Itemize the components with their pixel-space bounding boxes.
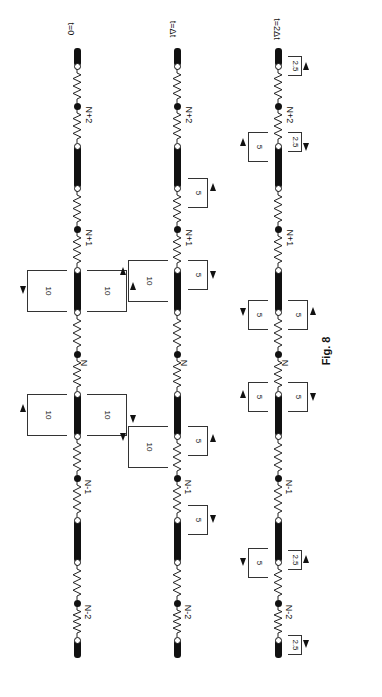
pulse-box: 5 [248, 132, 268, 162]
spring-icon [72, 315, 82, 351]
arrow-down-icon [210, 271, 216, 279]
spring-icon [172, 481, 182, 517]
pulse-value: 10 [43, 287, 52, 296]
node-mass [74, 600, 81, 607]
rod-end-terminal [74, 637, 81, 644]
arrow-up-icon [20, 404, 26, 412]
spring-icon [72, 565, 82, 600]
node-label: N+1 [184, 230, 194, 247]
rod-segment [275, 394, 282, 436]
node-label: N-1 [83, 480, 93, 495]
rod-segment [174, 394, 181, 436]
rod-end-terminal [275, 143, 282, 150]
rod-segment [74, 394, 81, 436]
pulse-value: 10 [144, 443, 153, 452]
node-mass [275, 103, 282, 110]
pulse-value: 10 [102, 287, 111, 296]
node-mass [275, 600, 282, 607]
spring-icon [172, 565, 182, 600]
spring-icon [273, 109, 283, 143]
pulse-value: 10 [43, 411, 52, 420]
pulse-box: 2.5 [288, 56, 302, 76]
spring-icon [172, 191, 182, 226]
spring-icon [273, 439, 283, 475]
node-label: N [79, 360, 89, 367]
pulse-box: 2.5 [288, 132, 302, 152]
spring-icon [273, 315, 283, 351]
pulse-value: 5 [254, 561, 263, 565]
rod-end-terminal [275, 637, 282, 644]
pulse-box: 10 [128, 260, 168, 302]
spring-icon [172, 232, 182, 267]
spring-icon [172, 315, 182, 351]
pulse-box: 5 [248, 300, 268, 330]
node-label: N+2 [184, 107, 194, 124]
spring-icon [72, 232, 82, 267]
pulse-value: 5 [193, 439, 202, 443]
pulse-value: 5 [254, 395, 263, 399]
arrow-down-icon [303, 640, 309, 648]
arrow-down-icon [120, 433, 126, 441]
node-mass [174, 351, 181, 358]
spring-icon [72, 481, 82, 517]
spring-icon [72, 69, 82, 103]
node-mass [275, 475, 282, 482]
rod-end-terminal [174, 391, 181, 398]
node-label: N-2 [284, 605, 294, 620]
arrow-up-icon [120, 267, 126, 275]
spring-icon [172, 109, 182, 143]
time-label: t=0 [66, 23, 76, 36]
node-label: N+1 [285, 230, 295, 247]
node-label: N+2 [285, 107, 295, 124]
rod-end-terminal [74, 267, 81, 274]
rod-segment [174, 520, 181, 562]
node-mass [74, 103, 81, 110]
spring-icon [273, 191, 283, 226]
pulse-value: 2.5 [290, 554, 299, 565]
pulse-value: 5 [193, 273, 202, 277]
spring-icon [72, 191, 82, 226]
pulse-box: 2.5 [288, 635, 302, 655]
arrow-up-icon [310, 307, 316, 315]
rod-segment [174, 146, 181, 188]
rod-end-terminal [174, 267, 181, 274]
arrow-down-icon [210, 515, 216, 523]
arrow-down-icon [240, 558, 246, 566]
arrow-up-icon [240, 138, 246, 146]
node-mass [174, 600, 181, 607]
pulse-box: 5 [188, 426, 208, 456]
rod-end-terminal [174, 143, 181, 150]
arrow-down-icon [20, 286, 26, 294]
node-label: N-1 [284, 480, 294, 495]
rod-end-terminal [174, 517, 181, 524]
time-label: t=Δt [168, 21, 178, 37]
rod-segment [275, 520, 282, 562]
arrow-down-icon [240, 308, 246, 316]
node-mass [174, 103, 181, 110]
arrow-up-icon [210, 183, 216, 191]
rod-segment [275, 146, 282, 188]
rod-end-terminal [275, 517, 282, 524]
arrow-up-icon [303, 62, 309, 70]
pulse-box: 10 [27, 270, 67, 312]
node-mass [74, 351, 81, 358]
pulse-box: 5 [288, 382, 308, 412]
node-label: N-2 [183, 605, 193, 620]
spring-icon [273, 232, 283, 267]
pulse-value: 5 [193, 191, 202, 195]
rod-end-terminal [275, 267, 282, 274]
rod-end-terminal [174, 637, 181, 644]
pulse-box: 5 [188, 505, 208, 535]
rod-segment [74, 146, 81, 188]
rod-end-terminal [74, 143, 81, 150]
arrow-up-icon [303, 555, 309, 563]
pulse-box: 10 [27, 394, 67, 436]
pulse-value: 5 [254, 145, 263, 149]
rod-segment [275, 270, 282, 312]
spring-icon [172, 439, 182, 475]
pulse-box: 10 [128, 426, 168, 468]
arrow-down-icon [303, 143, 309, 151]
pulse-box: 5 [188, 178, 208, 208]
node-label: N+2 [84, 107, 94, 124]
node-mass [74, 226, 81, 233]
